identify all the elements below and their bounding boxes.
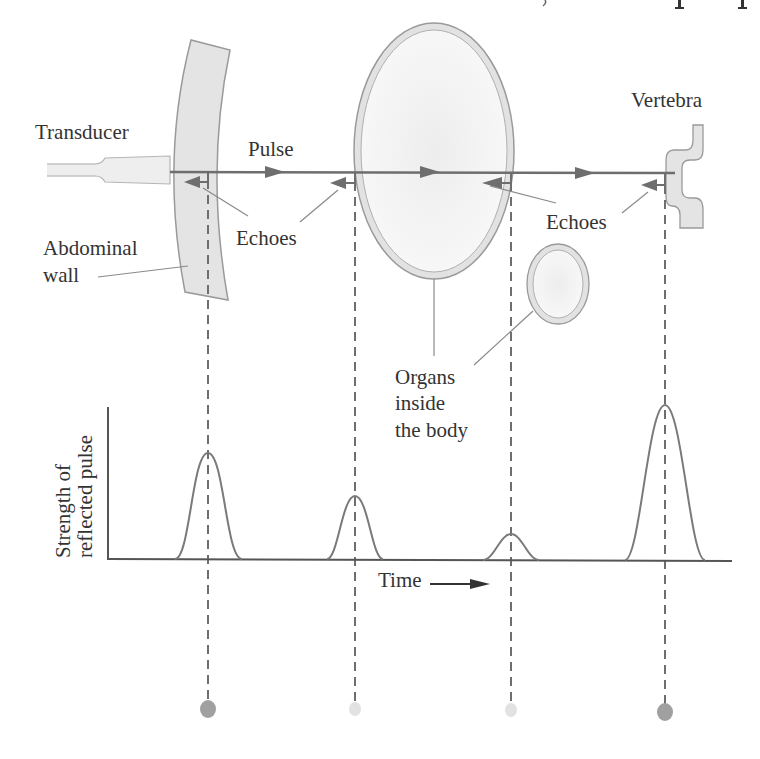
label-organs-2: inside — [395, 391, 445, 415]
dot-organ-back — [505, 703, 517, 717]
label-vertebra: Vertebra — [631, 88, 703, 112]
y-axis-label-line1: Strength of — [51, 464, 75, 558]
x-axis-label: Time — [378, 568, 422, 592]
clipped-text-fragments — [543, 0, 747, 9]
y-axis-label-line2: reflected pulse — [73, 435, 97, 558]
label-echoes-left: Echoes — [236, 226, 297, 250]
transducer-probe — [47, 156, 170, 184]
label-organs-3: the body — [395, 418, 468, 442]
label-echoes-right: Echoes — [546, 210, 607, 234]
dot-vertebra — [657, 703, 673, 721]
ultrasound-echo-diagram: Transducer Pulse Echoes Echoes Abdominal… — [0, 0, 760, 759]
small-organ — [527, 244, 589, 324]
dot-organ-front — [349, 702, 361, 716]
dot-abdominal-wall — [200, 700, 216, 718]
abdominal-wall — [174, 40, 230, 300]
label-transducer: Transducer — [35, 120, 129, 144]
large-organ — [354, 23, 514, 279]
echo-dots — [200, 700, 673, 721]
label-pulse: Pulse — [248, 137, 294, 161]
time-arrow-icon — [430, 579, 490, 589]
y-axis-label: Strength of reflected pulse — [51, 435, 97, 558]
vertebra — [666, 125, 703, 228]
label-abdominal-wall-2: wall — [43, 263, 79, 287]
pulse-beam — [170, 166, 675, 179]
label-abdominal-wall-1: Abdominal — [43, 236, 138, 260]
label-organs-1: Organs — [395, 365, 455, 389]
